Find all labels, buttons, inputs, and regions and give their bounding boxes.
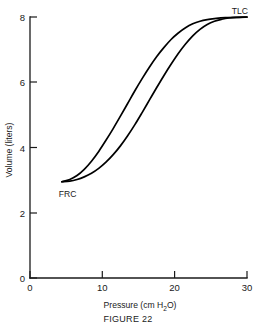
deflation-limb-curve <box>62 17 247 182</box>
y-tick-label-2: 2 <box>20 208 25 219</box>
figure-container: 8 6 4 2 0 0 10 20 30 Volume (liters) Pre… <box>0 0 256 323</box>
pressure-volume-chart: 8 6 4 2 0 0 10 20 30 Volume (liters) Pre… <box>0 0 256 323</box>
frc-label: FRC <box>59 189 77 199</box>
x-axis-title: Pressure (cm H2O) <box>104 300 177 312</box>
y-tick-label-4: 4 <box>20 143 25 154</box>
x-tick-label-10: 10 <box>97 282 108 293</box>
tlc-label: TLC <box>232 6 248 16</box>
figure-caption: FIGURE 22 <box>103 314 152 323</box>
x-axis-ticks <box>30 271 247 278</box>
y-tick-label-8: 8 <box>20 12 25 23</box>
y-tick-label-6: 6 <box>20 77 25 88</box>
y-axis-title: Volume (liters) <box>4 122 14 177</box>
y-tick-label-0: 0 <box>20 273 25 284</box>
y-axis-ticks <box>30 17 37 278</box>
x-tick-label-30: 30 <box>242 282 253 293</box>
x-tick-label-0: 0 <box>27 282 32 293</box>
x-tick-label-20: 20 <box>169 282 180 293</box>
inflation-limb-curve <box>62 17 247 182</box>
